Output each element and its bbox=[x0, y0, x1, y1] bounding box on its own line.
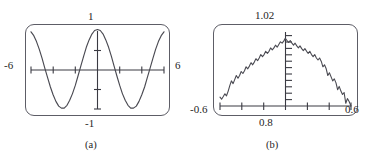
caption-panel-a: (a) bbox=[85, 139, 97, 150]
label-a-xmin: -6 bbox=[4, 60, 13, 71]
panel-b: 1.02 0.8 -0.6 0.6 (b) bbox=[192, 0, 384, 163]
y-ticks-b bbox=[286, 36, 293, 100]
calculator-screen-a bbox=[25, 24, 170, 116]
calculator-screen-b bbox=[213, 24, 358, 116]
plot-b bbox=[213, 24, 358, 116]
caption-panel-b: (b) bbox=[266, 139, 278, 150]
figure-two-graphing-screens: 1 -1 -6 6 (a) bbox=[0, 0, 384, 163]
label-b-ymax: 1.02 bbox=[255, 10, 274, 21]
label-b-xmid: 0.8 bbox=[259, 117, 273, 128]
label-a-xmax: 6 bbox=[175, 60, 181, 71]
panel-a: 1 -1 -6 6 (a) bbox=[0, 0, 192, 163]
label-b-xmax: 0.6 bbox=[345, 104, 359, 115]
label-b-xmin: -0.6 bbox=[190, 104, 207, 115]
plot-a bbox=[25, 24, 170, 116]
label-a-ymax: 1 bbox=[88, 11, 94, 22]
label-a-ymin: -1 bbox=[85, 118, 94, 129]
